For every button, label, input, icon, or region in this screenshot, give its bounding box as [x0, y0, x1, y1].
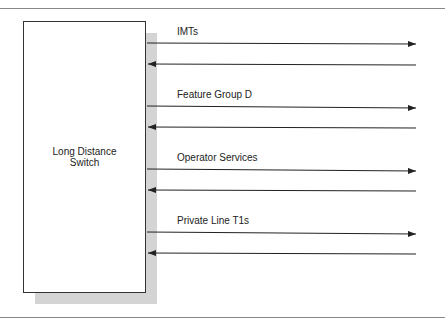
- channel-label-operator-services: Operator Services: [177, 152, 258, 163]
- fgd-outgoing-arrow: [147, 106, 416, 108]
- t1s-incoming-arrow: [148, 253, 416, 254]
- fgd-incoming-arrow: [148, 127, 416, 128]
- imts-outgoing-arrow: [147, 43, 416, 44]
- opsvc-incoming-arrow: [148, 190, 416, 191]
- opsvc-outgoing-arrow: [147, 169, 416, 171]
- channel-label-feature-group-d: Feature Group D: [177, 89, 252, 100]
- channel-label-imts: IMTs: [177, 26, 198, 37]
- t1s-outgoing-arrow: [147, 232, 416, 234]
- channel-label-private-line-t1s: Private Line T1s: [177, 215, 249, 226]
- imts-incoming-arrow: [148, 64, 416, 65]
